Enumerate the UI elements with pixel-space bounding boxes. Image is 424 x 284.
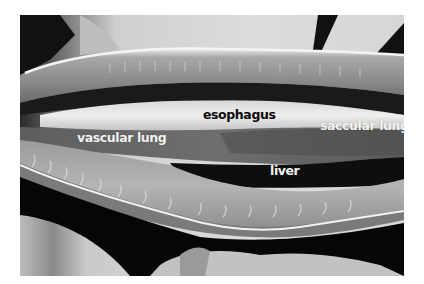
label-saccular-lung: saccular lung bbox=[320, 120, 404, 133]
photo-illustration bbox=[20, 15, 404, 276]
dissection-photo: esophagus vascular lung saccular lung li… bbox=[20, 15, 404, 276]
label-liver: liver bbox=[270, 165, 299, 178]
label-vascular-lung: vascular lung bbox=[77, 132, 166, 145]
label-esophagus: esophagus bbox=[203, 109, 275, 122]
